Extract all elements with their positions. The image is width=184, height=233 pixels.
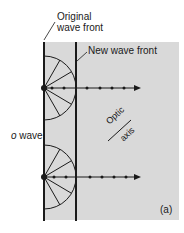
- wave-text: wave: [17, 130, 43, 141]
- wave-front-diagram: [0, 0, 184, 233]
- panel-label: (a): [160, 204, 172, 215]
- original-label-line1: Original: [57, 11, 103, 22]
- original-label-line2: wave front: [57, 22, 103, 33]
- crystal-medium: [44, 42, 179, 220]
- o-wave-label: o wave: [11, 130, 43, 141]
- new-wave-front-label: New wave front: [88, 45, 157, 56]
- original-leader-line: [44, 22, 55, 40]
- original-wave-front-label: Original wave front: [57, 11, 103, 33]
